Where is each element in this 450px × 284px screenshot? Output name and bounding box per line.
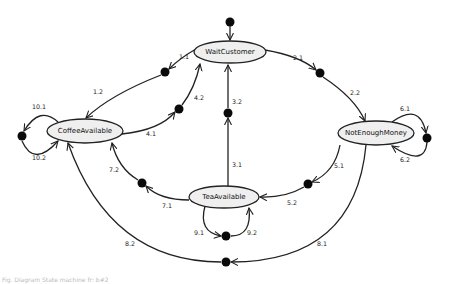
junction-dot bbox=[18, 132, 27, 141]
state-label: NotEnoughMoney bbox=[345, 129, 407, 137]
transition-label: 7.2 bbox=[109, 166, 119, 173]
state-tea-available[interactable]: TeaAvailable bbox=[189, 186, 259, 208]
transition-label: 6.1 bbox=[400, 105, 410, 112]
transition-label: 2.2 bbox=[350, 89, 360, 96]
state-machine-diagram: WaitCustomer CoffeeAvailable NotEnoughMo… bbox=[0, 0, 450, 284]
transition-label: 3.1 bbox=[232, 161, 242, 168]
state-not-enough-money[interactable]: NotEnoughMoney bbox=[338, 121, 414, 145]
transition-1-2 bbox=[86, 75, 161, 118]
state-label: CoffeeAvailable bbox=[58, 127, 112, 135]
transition-label: 9.2 bbox=[247, 229, 257, 236]
transition-label: 1.2 bbox=[93, 88, 103, 95]
junction-dot bbox=[161, 68, 170, 77]
transition-label: 7.1 bbox=[162, 202, 172, 209]
initial-state-dot bbox=[226, 18, 235, 27]
transition-label: 4.1 bbox=[146, 130, 156, 137]
transition-label: 6.2 bbox=[400, 156, 410, 163]
transition-label: 5.1 bbox=[334, 162, 344, 169]
junction-dot bbox=[304, 180, 313, 189]
transition-2-2 bbox=[323, 77, 365, 121]
transition-label: 5.2 bbox=[287, 199, 297, 206]
state-coffee-available[interactable]: CoffeeAvailable bbox=[47, 119, 123, 143]
transition-label: 8.2 bbox=[125, 240, 135, 247]
junction-dot bbox=[138, 179, 147, 188]
junction-dot bbox=[175, 105, 184, 114]
transition-2-1 bbox=[265, 50, 316, 70]
transition-label: 9.1 bbox=[194, 229, 204, 236]
junction-dot bbox=[423, 134, 432, 143]
junction-dot bbox=[222, 258, 231, 267]
transition-5-2 bbox=[260, 187, 304, 197]
transition-6-2 bbox=[392, 142, 427, 156]
transition-7-1 bbox=[146, 186, 189, 200]
transition-7-2 bbox=[112, 143, 138, 180]
junction-dots bbox=[18, 68, 432, 267]
state-wait-customer[interactable]: WaitCustomer bbox=[194, 41, 266, 63]
junction-dot bbox=[222, 232, 231, 241]
transition-label: 8.1 bbox=[317, 240, 327, 247]
junction-dot bbox=[224, 109, 233, 118]
state-label: TeaAvailable bbox=[201, 193, 245, 201]
transition-label: 10.1 bbox=[32, 103, 46, 110]
state-label: WaitCustomer bbox=[205, 48, 255, 56]
junction-dot bbox=[316, 69, 325, 78]
figure-caption: Fig. Diagram State machine fr: b#2 bbox=[2, 276, 109, 283]
transition-label: 3.2 bbox=[232, 98, 242, 105]
transition-9-1 bbox=[203, 206, 221, 236]
transition-label: 1.1 bbox=[179, 53, 189, 60]
transition-10-2 bbox=[22, 141, 58, 155]
transition-labels: 1.1 1.2 2.1 2.2 3.1 3.2 4.1 4.2 5.1 5.2 … bbox=[32, 53, 410, 247]
transition-label: 10.2 bbox=[32, 154, 46, 161]
transition-label: 2.1 bbox=[293, 54, 303, 61]
transition-label: 4.2 bbox=[194, 94, 204, 101]
